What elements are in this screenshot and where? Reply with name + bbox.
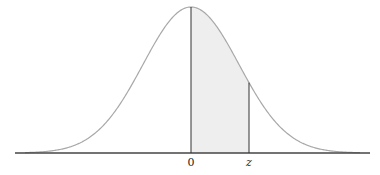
label-zero: 0 [188, 156, 195, 169]
label-z: z [245, 156, 252, 169]
normal-distribution-diagram: 0 z [0, 0, 380, 175]
shaded-area-0-to-z [191, 7, 249, 153]
